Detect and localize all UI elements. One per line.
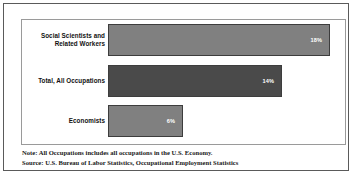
bar-value-label: 18% bbox=[311, 37, 330, 43]
category-label-line2: Related Workers bbox=[55, 40, 105, 47]
bar-value-label: 14% bbox=[263, 78, 282, 84]
chart-plot-area: Social Scientists and Related Workers 18… bbox=[21, 19, 346, 145]
category-label-social-scientists: Social Scientists and Related Workers bbox=[22, 24, 106, 56]
bar-social-scientists: 18% bbox=[108, 24, 330, 56]
category-label-economists: Economists bbox=[22, 105, 106, 137]
footnote-source: Source: U.S. Bureau of Labor Statistics,… bbox=[22, 158, 342, 168]
bar-row: Social Scientists and Related Workers 18… bbox=[22, 24, 345, 56]
category-label-line1: Total, All Occupations bbox=[38, 77, 105, 86]
bar-value-label: 6% bbox=[167, 118, 182, 124]
category-label-total-all-occupations: Total, All Occupations bbox=[22, 65, 106, 97]
bar-row: Total, All Occupations 14% bbox=[22, 65, 345, 97]
footnotes: Note: All Occupations includes all occup… bbox=[22, 148, 342, 168]
chart-screenshot: Social Scientists and Related Workers 18… bbox=[0, 0, 355, 182]
bar-row: Economists 6% bbox=[22, 105, 345, 137]
category-label-line1: Economists bbox=[69, 117, 105, 126]
outer-frame: Social Scientists and Related Workers 18… bbox=[3, 3, 349, 171]
category-label-line1: Social Scientists and bbox=[41, 32, 105, 39]
bar-economists: 6% bbox=[108, 105, 183, 137]
footnote-note: Note: All Occupations includes all occup… bbox=[22, 148, 342, 158]
bar-total-all-occupations: 14% bbox=[108, 65, 282, 97]
